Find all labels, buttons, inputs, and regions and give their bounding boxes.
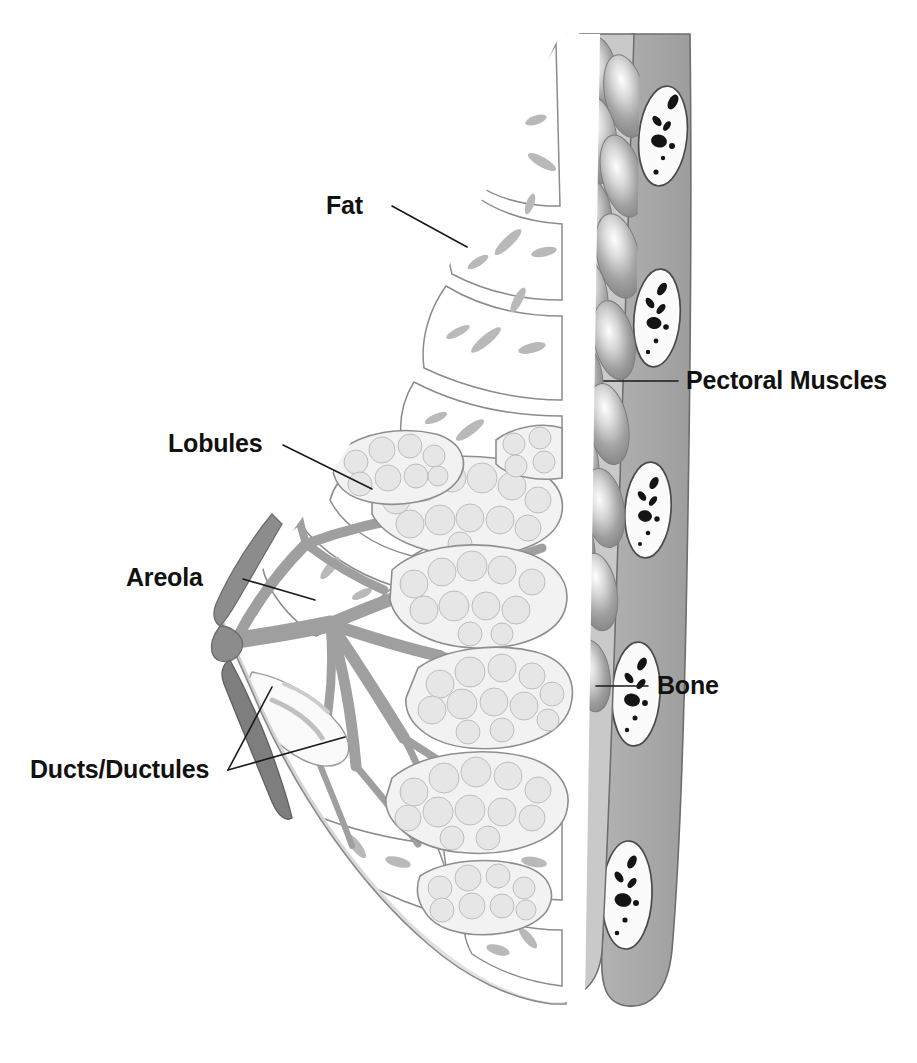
lobule-cluster <box>386 752 568 854</box>
label-fat: Fat <box>326 191 364 219</box>
illustration-canvas: Fat Lobules Areola Ducts/Ductules Pector… <box>0 0 917 1063</box>
breast-interior <box>200 20 600 1020</box>
label-areola: Areola <box>126 563 204 591</box>
fat-compartment <box>474 44 560 206</box>
lobule-cluster <box>390 545 567 648</box>
lobule-cluster <box>333 431 463 505</box>
breast-anatomy-figure: Fat Lobules Areola Ducts/Ductules Pector… <box>0 0 917 1063</box>
label-bone: Bone <box>657 671 719 699</box>
label-pectoral-muscles: Pectoral Muscles <box>686 366 887 394</box>
leader-fat <box>392 206 467 247</box>
lobule-cluster <box>406 647 573 748</box>
label-lobules: Lobules <box>168 429 262 457</box>
lobule-cluster <box>418 861 552 935</box>
label-ducts-ductules: Ducts/Ductules <box>30 755 209 783</box>
lobule-cluster <box>496 425 562 479</box>
